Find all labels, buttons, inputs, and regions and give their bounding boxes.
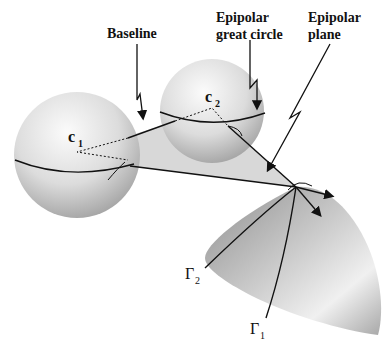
gamma1-label: Γ [250,320,259,337]
gamma1-subscript: 1 [260,330,265,341]
c1-label: c [68,128,75,145]
baseline-leader-arrow [137,44,143,118]
c1-subscript: 1 [78,138,83,149]
gamma2-subscript: 2 [195,275,200,286]
sphere-c1 [14,92,140,218]
plane-label-line1: Epipolar [308,10,361,25]
great-circle-label-line2: great circle [216,27,283,42]
plane-label-line2: plane [308,27,341,42]
c2-subscript: 2 [215,98,220,109]
great-circle-label-line1: Epipolar [216,10,269,25]
diagram-canvas: Baseline Epipolar great circle Epipolar … [0,0,392,357]
baseline-label: Baseline [107,26,157,41]
epipolar-diagram: Baseline Epipolar great circle Epipolar … [0,0,392,357]
c2-label: c [205,88,212,105]
plane-leader-arrow [268,44,330,170]
gamma2-label: Γ [185,265,194,282]
